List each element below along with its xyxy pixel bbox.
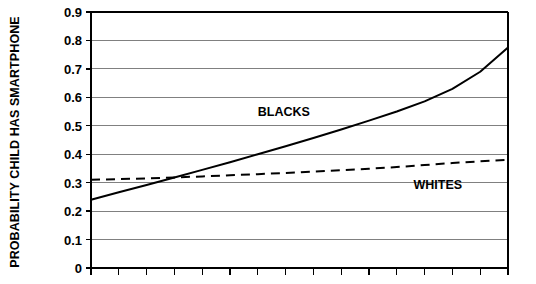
- chart-figure: PROBABILITY CHILD HAS SMARTPHONE 00.10.2…: [0, 0, 536, 284]
- plot-area: [0, 0, 536, 284]
- series-label-whites: WHITES: [413, 178, 462, 192]
- plot-frame: [91, 12, 508, 268]
- series-label-blacks: BLACKS: [258, 105, 310, 119]
- x-axis-ticks: [91, 268, 508, 275]
- gridlines: [91, 12, 508, 240]
